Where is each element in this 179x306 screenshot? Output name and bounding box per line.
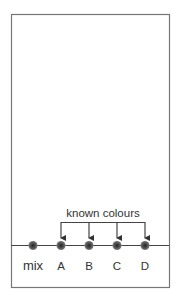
spot-b — [85, 241, 94, 250]
spot-a — [57, 241, 66, 250]
chromatography-diagram: known colours mix A B C D — [0, 0, 179, 306]
label-d: D — [141, 260, 149, 272]
spot-d — [141, 241, 150, 250]
label-a: A — [57, 260, 65, 272]
spot-mix — [29, 241, 38, 250]
label-c: C — [113, 260, 121, 272]
bracket-label: known colours — [66, 207, 140, 219]
label-mix: mix — [23, 258, 44, 273]
label-b: B — [85, 260, 93, 272]
spot-c — [113, 241, 122, 250]
